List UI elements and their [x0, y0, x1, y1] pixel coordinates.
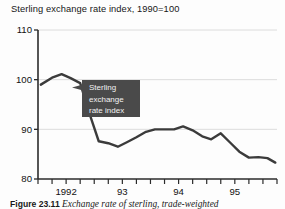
svg-text:1992: 1992	[55, 186, 76, 197]
svg-text:80: 80	[21, 173, 32, 184]
x-tick-labels: 1992939495	[55, 186, 240, 197]
figure-caption-text: Exchange rate of sterling, trade-weighte…	[62, 199, 218, 209]
figure-caption: Figure 23.11 Exchange rate of sterling, …	[10, 199, 285, 209]
svg-text:100: 100	[16, 74, 32, 85]
callout-line-1: Sterling	[89, 82, 137, 94]
svg-text:90: 90	[21, 124, 32, 135]
svg-text:94: 94	[173, 186, 184, 197]
series-callout-box: Sterling exchange rate index	[82, 80, 140, 117]
y-axis	[34, 30, 38, 179]
chart-plot-area: 8090100110 1992939495	[0, 0, 285, 209]
figure-number: Figure 23.11	[10, 199, 60, 209]
y-tick-labels: 8090100110	[16, 24, 32, 184]
callout-line-3: rate index	[89, 105, 137, 117]
svg-text:110: 110	[17, 24, 32, 35]
svg-text:95: 95	[229, 186, 240, 197]
figure-panel: Sterling exchange rate index, 1990=100 8…	[0, 0, 285, 209]
svg-text:93: 93	[117, 186, 128, 197]
gridlines	[38, 30, 277, 179]
line-chart-svg: 8090100110 1992939495	[0, 0, 285, 209]
callout-line-2: exchange	[89, 94, 137, 106]
